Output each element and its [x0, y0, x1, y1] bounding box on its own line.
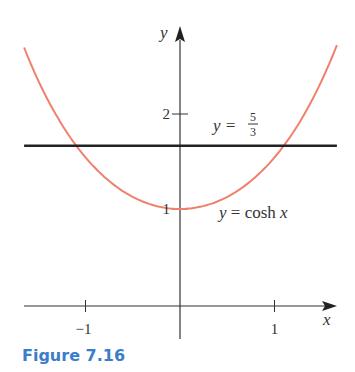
annotation-five-thirds: y = 5 3 [211, 110, 258, 139]
fraction-denominator: 3 [250, 125, 256, 139]
x-axis-label: x [322, 310, 331, 329]
chart: y x −1 1 1 2 y = 5 3 y = cosh x [0, 0, 355, 372]
annotation-lhs: y = [211, 116, 236, 135]
x-tick-label: 1 [271, 321, 279, 337]
x-tick-label: −1 [76, 321, 92, 337]
figure-caption: Figure 7.16 [22, 346, 125, 365]
y-axis-label: y [158, 23, 168, 42]
fraction-numerator: 5 [250, 110, 256, 124]
annotation-cosh: y = cosh x [217, 203, 288, 222]
y-tick-label: 2 [163, 106, 171, 122]
y-axis-arrow [175, 26, 185, 42]
y-tick-label: 1 [163, 201, 171, 217]
